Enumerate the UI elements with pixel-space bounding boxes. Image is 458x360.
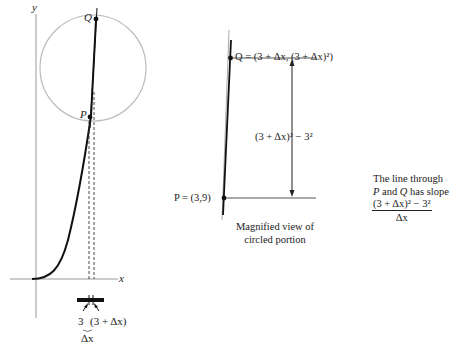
slope-note: The line through P and Q has slope: [373, 172, 449, 198]
arrowhead-down: [290, 190, 295, 197]
p-coordinate-label: P = (3,9): [174, 193, 211, 204]
magnified-point-q: [228, 56, 233, 61]
point-q: [94, 17, 99, 22]
point-q-label: Q: [84, 12, 92, 23]
magnified-caption: Magnified view of circled portion: [225, 220, 325, 246]
x-axis-label: x: [119, 273, 124, 284]
delta-x-label: Δx: [81, 333, 94, 344]
caption-line-1: Magnified view of: [225, 220, 325, 233]
point-p: [88, 115, 93, 120]
secant-line: [90, 8, 97, 128]
arrowhead-3-plus-dx: [94, 303, 98, 308]
arrowhead-3: [84, 303, 88, 308]
q-coordinate-label: Q = (3 + Δx, (3 + Δx)²): [235, 52, 333, 63]
y-axis-label: y: [32, 2, 37, 13]
slope-fraction: (3 + Δx)² − 3² Δx: [372, 198, 432, 223]
parabola-curve: [32, 20, 96, 279]
point-p-label: P: [80, 109, 87, 120]
tick-label-3: 3: [78, 316, 84, 327]
slope-note-and: and: [379, 186, 399, 197]
slope-note-line-1: The line through: [373, 172, 449, 185]
magnified-point-p: [222, 196, 227, 201]
magnified-curve: [223, 40, 231, 215]
slope-denominator: Δx: [372, 211, 432, 223]
slope-numerator: (3 + Δx)² − 3²: [372, 198, 432, 211]
tick-label-3-plus-dx: (3 + Δx): [90, 316, 127, 327]
slope-note-has-slope: has slope: [407, 186, 448, 197]
vertical-difference-label: (3 + Δx)² − 3²: [255, 132, 313, 143]
caption-line-2: circled portion: [225, 233, 325, 246]
slope-note-line-2: P and Q has slope: [373, 185, 449, 198]
